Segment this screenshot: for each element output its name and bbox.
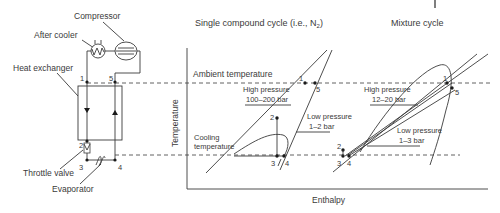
after-cooler-icon bbox=[91, 40, 105, 58]
single-point-1 bbox=[303, 81, 306, 84]
x-axis-label: Enthalpy bbox=[312, 195, 346, 205]
mixture-point-4 bbox=[347, 154, 350, 157]
mixture-high-pressure-label: High pressure bbox=[364, 85, 411, 94]
after-cooler-label: After cooler bbox=[34, 30, 78, 40]
single-label-4: 4 bbox=[285, 159, 289, 168]
single-cycle-title: Single compound cycle (i.e., N2) bbox=[195, 18, 323, 29]
throttle-valve-label: Throttle valve bbox=[23, 168, 74, 178]
schematic-label-3: 3 bbox=[79, 163, 83, 172]
single-point-2 bbox=[275, 116, 278, 119]
mixture-label-1: 1 bbox=[443, 74, 447, 83]
single-label-5: 5 bbox=[316, 85, 320, 94]
heat-exchanger-label: Heat exchanger bbox=[13, 63, 73, 73]
heat-exchanger-leader bbox=[57, 73, 78, 96]
mixture-high-pressure-value: 12–20 bar bbox=[372, 95, 406, 104]
single-high-pressure-label: High pressure bbox=[243, 85, 290, 94]
mixture-low-pressure-value: 1–3 bar bbox=[399, 136, 425, 145]
single-label-3: 3 bbox=[271, 159, 275, 168]
single-point-3 bbox=[275, 154, 278, 157]
single-point-4 bbox=[282, 154, 285, 157]
arrow-up-icon bbox=[112, 110, 118, 115]
process-schematic: Compressor After cooler Heat exchanger bbox=[13, 11, 140, 194]
mixture-label-3: 3 bbox=[337, 159, 341, 168]
schematic-label-4: 4 bbox=[118, 163, 122, 172]
mixture-label-2: 2 bbox=[337, 142, 341, 151]
mixture-cycle-title: Mixture cycle bbox=[391, 18, 444, 28]
evaporator-label: Evaporator bbox=[52, 184, 94, 194]
mixture-low-pressure-label: Low pressure bbox=[397, 126, 442, 135]
cryogenic-cycle-diagram: Compressor After cooler Heat exchanger bbox=[0, 0, 500, 213]
mixture-point-5 bbox=[450, 86, 453, 89]
saturation-dome bbox=[234, 134, 288, 156]
schematic-label-5: 5 bbox=[109, 74, 113, 83]
single-low-pressure-label: Low pressure bbox=[307, 112, 352, 121]
schematic-label-2: 2 bbox=[79, 141, 83, 150]
schematic-point-3 bbox=[85, 158, 88, 161]
mixture-label-4: 4 bbox=[347, 159, 351, 168]
ambient-temperature-label: Ambient temperature bbox=[193, 69, 273, 79]
schematic-label-1: 1 bbox=[80, 74, 84, 83]
separator-slash bbox=[278, 159, 281, 166]
cooling-temperature-label-1: Cooling bbox=[194, 133, 219, 142]
throttle-valve-icon bbox=[84, 143, 90, 153]
compressor-icon bbox=[115, 42, 137, 60]
schematic-point-2 bbox=[85, 139, 88, 142]
mixture-label-5: 5 bbox=[455, 88, 459, 97]
mixture-cycle: Mixture cycle 1 5 2 3 4 High pressure 12… bbox=[333, 18, 488, 172]
single-label-1: 1 bbox=[299, 74, 303, 83]
single-high-pressure-value: 100–200 bar bbox=[246, 95, 289, 104]
compressor-label: Compressor bbox=[74, 11, 120, 21]
low-pressure-isobar bbox=[280, 50, 332, 170]
single-low-pressure-value: 1–2 bar bbox=[309, 122, 335, 131]
schematic-point-4 bbox=[113, 158, 116, 161]
arrow-down-icon bbox=[84, 108, 90, 113]
y-axis-label: Temperature bbox=[170, 99, 180, 147]
compressor-leader bbox=[103, 22, 124, 41]
single-label-2: 2 bbox=[270, 113, 274, 122]
